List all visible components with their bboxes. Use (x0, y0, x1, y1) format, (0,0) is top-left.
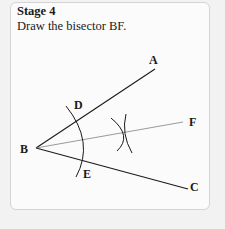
angle-bisector-diagram: A B C D E F (0, 0, 225, 229)
label-A: A (149, 53, 158, 67)
bisector-BF (36, 122, 183, 148)
label-B: B (20, 142, 28, 156)
label-D: D (74, 98, 83, 112)
ray-BA (36, 69, 155, 148)
arc-from-E (124, 114, 132, 153)
label-C: C (190, 180, 199, 194)
ray-BC (36, 148, 188, 189)
label-E: E (83, 167, 91, 181)
label-F: F (189, 115, 196, 129)
